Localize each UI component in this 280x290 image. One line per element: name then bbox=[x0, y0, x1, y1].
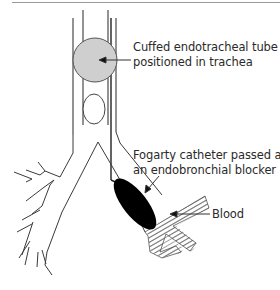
left-bronchus bbox=[14, 135, 98, 275]
fogarty-catheter-line bbox=[111, 18, 124, 186]
endobronchial-blocker-balloon bbox=[106, 172, 163, 236]
blood-label: Blood bbox=[212, 207, 244, 221]
tube-lumen-oval bbox=[83, 94, 105, 124]
diagram: Cuffed endotracheal tube positioned in t… bbox=[0, 0, 280, 290]
fogarty-label-line1: Fogarty catheter passed as bbox=[133, 148, 280, 162]
cuff-label-line1: Cuffed endotracheal tube bbox=[133, 40, 278, 54]
fogarty-label-line2: an endobronchial blocker bbox=[133, 163, 276, 177]
cuff-label-line2: positioned in trachea bbox=[133, 55, 253, 69]
fogarty-leader-line bbox=[148, 176, 159, 189]
